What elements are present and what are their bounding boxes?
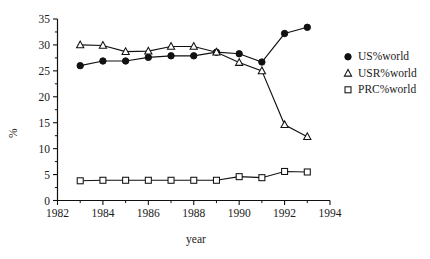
marker-filled-circle [236, 51, 242, 57]
marker-open-triangle [281, 121, 288, 128]
series-prc-world [77, 168, 310, 183]
tick-labels: 0510152025303519821984198619881990199219… [39, 13, 342, 219]
marker-open-square [282, 168, 288, 174]
marker-open-square [100, 177, 106, 183]
chart-container: 0510152025303519821984198619881990199219… [0, 0, 430, 259]
x-tick-label: 1988 [182, 207, 205, 219]
legend-label: US%world [358, 50, 409, 62]
x-axis-title: year [186, 233, 206, 246]
y-tick-label: 5 [44, 169, 50, 181]
x-tick-label: 1994 [319, 207, 342, 219]
marker-open-square [236, 174, 242, 180]
y-tick-label: 30 [39, 39, 51, 51]
data-series [77, 24, 311, 184]
line-chart: 0510152025303519821984198619881990199219… [0, 0, 430, 259]
y-tick-label: 25 [39, 65, 51, 77]
x-tick-label: 1992 [273, 207, 296, 219]
marker-filled-circle [259, 59, 265, 65]
marker-open-square [123, 177, 129, 183]
marker-filled-circle [145, 54, 151, 60]
legend-label: PRC%world [358, 83, 416, 95]
marker-open-square [168, 177, 174, 183]
y-tick-label: 10 [39, 143, 51, 155]
marker-filled-circle [345, 54, 351, 60]
marker-filled-circle [281, 30, 287, 36]
legend-item: PRC%world [345, 83, 416, 95]
marker-open-square [213, 177, 219, 183]
legend-item: US%world [345, 50, 410, 62]
marker-open-square [77, 178, 83, 184]
marker-filled-circle [100, 58, 106, 64]
x-tick-label: 1982 [46, 207, 69, 219]
marker-filled-circle [304, 24, 310, 30]
marker-filled-circle [191, 53, 197, 59]
chart-legend: US%worldUSR%worldPRC%world [344, 50, 417, 95]
marker-open-triangle [77, 41, 84, 48]
legend-label: USR%world [358, 67, 417, 79]
marker-filled-circle [77, 62, 83, 68]
y-tick-label: 35 [39, 13, 51, 25]
marker-open-triangle [304, 133, 311, 140]
x-tick-label: 1990 [228, 207, 251, 219]
x-tick-label: 1984 [91, 207, 114, 219]
marker-open-square [145, 177, 151, 183]
y-tick-label: 0 [44, 195, 50, 207]
legend-item: USR%world [344, 67, 417, 79]
marker-open-square [345, 87, 351, 93]
marker-filled-circle [122, 58, 128, 64]
x-tick-label: 1986 [137, 207, 160, 219]
marker-open-square [191, 177, 197, 183]
axis-titles: %year [7, 128, 207, 246]
marker-open-triangle [344, 69, 351, 76]
y-axis-title: % [7, 128, 19, 138]
y-tick-label: 20 [39, 91, 51, 103]
marker-filled-circle [168, 53, 174, 59]
marker-open-square [259, 175, 265, 181]
marker-open-square [304, 169, 310, 175]
y-tick-label: 15 [39, 117, 51, 129]
